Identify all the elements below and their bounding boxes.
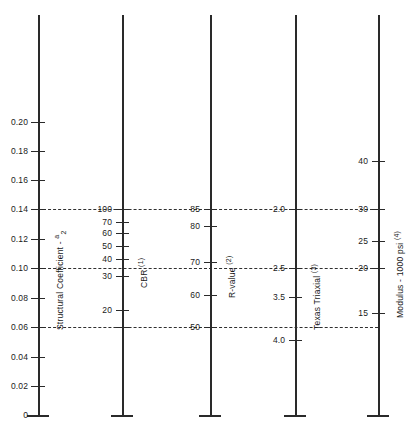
axis-note-r-value: (2) (225, 256, 232, 265)
tick-mark (204, 262, 217, 263)
tick-mark (116, 222, 129, 223)
tick-label-r-value: 70 (172, 258, 200, 267)
tick-label-texas-triaxial: 2.0 (255, 205, 285, 214)
tick-label-structural-coefficient: 0.08 (0, 294, 28, 303)
guide-line-2 (38, 268, 378, 269)
axis-title-modulus: Modulus - 1000 psi (4) (392, 231, 405, 318)
axis-title-cbr: CBR (1) (136, 258, 149, 288)
axis-title-structural-coefficient: Structural Coefficient - a2 (52, 231, 68, 330)
tick-mark (289, 297, 302, 298)
tick-label-texas-triaxial: 3.5 (255, 293, 285, 302)
axis-structural-coefficient (38, 15, 40, 416)
axis-modulus (378, 15, 380, 416)
tick-label-structural-coefficient: 0.18 (0, 147, 28, 156)
tick-mark (372, 268, 385, 269)
tick-label-structural-coefficient: 0.06 (0, 323, 28, 332)
tick-label-r-value: 85 (172, 205, 200, 214)
tick-mark (289, 340, 302, 341)
tick-mark (31, 151, 45, 152)
tick-label-modulus: 40 (340, 157, 368, 166)
tick-label-structural-coefficient: 0.02 (0, 382, 28, 391)
tick-mark (31, 386, 45, 387)
tick-mark (372, 161, 385, 162)
axis-title-text: Texas Triaxial (312, 273, 322, 330)
axis-r-value (210, 15, 212, 416)
tick-label-r-value: 60 (172, 291, 200, 300)
tick-mark (31, 357, 45, 358)
tick-label-modulus: 20 (340, 264, 368, 273)
tick-mark (289, 268, 302, 269)
tick-label-texas-triaxial: 2.5 (255, 264, 285, 273)
tick-mark (116, 276, 129, 277)
axis-cbr (122, 15, 124, 416)
tick-label-structural-coefficient: 0 (0, 411, 28, 420)
tick-mark (116, 327, 129, 328)
tick-mark (204, 327, 217, 328)
tick-mark (204, 226, 217, 227)
axis-foot-cbr (111, 415, 133, 417)
axis-title-texas-triaxial: Texas Triaxial (3) (309, 264, 322, 330)
tick-label-cbr: 30 (84, 272, 112, 281)
tick-mark (372, 209, 385, 210)
tick-label-cbr: 70 (84, 218, 112, 227)
tick-mark (116, 246, 129, 247)
tick-label-modulus: 30 (340, 205, 368, 214)
tick-label-cbr: 50 (84, 242, 112, 251)
tick-label-structural-coefficient: 0.12 (0, 235, 28, 244)
tick-label-r-value: 50 (172, 323, 200, 332)
tick-label-structural-coefficient: 0.10 (0, 264, 28, 273)
tick-mark (31, 327, 45, 328)
axis-note-texas-triaxial: (3) (310, 264, 317, 273)
axis-note-modulus: (4) (393, 231, 400, 240)
tick-mark (289, 209, 302, 210)
tick-mark (116, 209, 129, 210)
tick-label-cbr: 60 (84, 229, 112, 238)
axis-texas-triaxial (295, 15, 297, 416)
axis-title-text: CBR (139, 267, 149, 288)
tick-label-texas-triaxial: 4.0 (255, 336, 285, 345)
tick-label-modulus: 15 (340, 309, 368, 318)
axis-foot-texas-triaxial (284, 415, 306, 417)
tick-label-modulus: 25 (340, 237, 368, 246)
axis-title-text: Structural Coefficient - (55, 239, 65, 330)
tick-mark (116, 233, 129, 234)
tick-label-structural-coefficient: 0.20 (0, 118, 28, 127)
tick-mark (31, 415, 45, 416)
tick-mark (116, 310, 129, 311)
axis-title-text: Modulus - 1000 psi (395, 240, 405, 318)
tick-mark (31, 298, 45, 299)
tick-mark (31, 180, 45, 181)
tick-label-cbr: 100 (84, 205, 112, 214)
tick-label-structural-coefficient: 0.04 (0, 353, 28, 362)
tick-mark (204, 209, 217, 210)
tick-label-cbr: 40 (84, 255, 112, 264)
tick-mark (31, 209, 45, 210)
tick-mark (372, 313, 385, 314)
axis-foot-modulus (367, 415, 389, 417)
axis-title-text: R-value (227, 265, 237, 298)
nomograph-chart: 0.20 0.18 0.16 0.14 0.12 0.10 0.08 0.06 … (0, 0, 409, 428)
tick-label-r-value: 80 (172, 222, 200, 231)
tick-label-structural-coefficient: 0.14 (0, 205, 28, 214)
tick-label-cbr: 20 (84, 306, 112, 315)
tick-mark (31, 239, 45, 240)
tick-mark (31, 122, 45, 123)
axis-title-subscript: 2 (60, 231, 67, 235)
tick-mark (204, 295, 217, 296)
axis-title-symbol: a (53, 235, 60, 239)
tick-mark (31, 268, 45, 269)
tick-mark (372, 241, 385, 242)
axis-foot-r-value (199, 415, 221, 417)
axis-note-cbr: (1) (137, 258, 144, 267)
tick-label-structural-coefficient: 0.16 (0, 176, 28, 185)
tick-mark (116, 259, 129, 260)
axis-title-r-value: R-value (2) (224, 256, 237, 298)
